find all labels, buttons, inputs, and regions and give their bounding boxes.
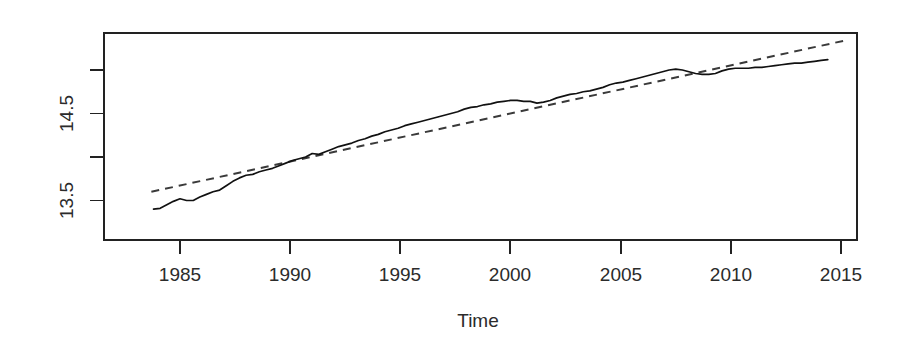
y-axis-tick-labels: 14.5 13.5 <box>56 95 77 219</box>
x-tick-label-2015: 2015 <box>820 264 862 285</box>
chart-plot-area: 14.5 13.5 1985 1990 1995 2000 2005 2010 … <box>0 0 910 359</box>
x-axis-ticks <box>180 240 841 254</box>
x-tick-label-2010: 2010 <box>710 264 752 285</box>
x-tick-label-2000: 2000 <box>489 264 531 285</box>
x-axis-tick-labels: 1985 1990 1995 2000 2005 2010 2015 <box>159 264 862 285</box>
x-tick-label-1990: 1990 <box>269 264 311 285</box>
x-tick-label-1985: 1985 <box>159 264 201 285</box>
y-tick-label-13-5: 13.5 <box>56 182 77 219</box>
plot-frame <box>104 33 857 240</box>
time-series-chart: 14.5 13.5 1985 1990 1995 2000 2005 2010 … <box>0 0 910 359</box>
observed-series-line <box>154 60 828 210</box>
y-axis-ticks <box>90 70 104 201</box>
trend-line-dashed <box>151 40 845 191</box>
x-axis-title: Time <box>457 310 499 331</box>
x-tick-label-1995: 1995 <box>379 264 421 285</box>
y-tick-label-14-5: 14.5 <box>56 95 77 132</box>
x-tick-label-2005: 2005 <box>600 264 642 285</box>
